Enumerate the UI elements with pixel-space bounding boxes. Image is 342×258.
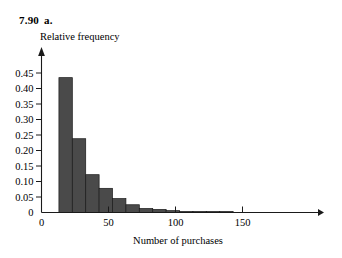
y-tick-label: 0.10 — [15, 176, 33, 187]
y-axis-ticks: 00.050.100.150.200.250.300.350.400.45 — [15, 68, 42, 219]
histogram-bar — [59, 78, 72, 213]
bars-group — [59, 78, 233, 213]
y-tick-label: 0.40 — [15, 83, 33, 94]
histogram-bar — [113, 199, 126, 213]
x-tick-label: 0 — [39, 217, 44, 228]
x-axis-title: Number of purchases — [0, 235, 342, 246]
x-axis-title-text: Number of purchases — [133, 235, 223, 246]
x-axis-arrowhead — [318, 209, 324, 216]
y-tick-label: 0.05 — [15, 192, 33, 203]
y-tick-label: 0.20 — [15, 145, 33, 156]
histogram-bar — [72, 139, 85, 213]
y-tick-label: 0.35 — [15, 99, 33, 110]
histogram-plot: 00.050.100.150.200.250.300.350.400.45 05… — [0, 0, 342, 258]
y-tick-label: 0.45 — [15, 68, 33, 79]
histogram-bar — [99, 188, 112, 212]
y-tick-label: 0.25 — [15, 130, 33, 141]
x-tick-label: 50 — [103, 217, 114, 228]
histogram-bar — [126, 205, 139, 213]
x-tick-label: 150 — [235, 217, 251, 228]
y-axis-arrowhead — [38, 47, 45, 56]
histogram-bar — [86, 175, 99, 213]
y-tick-label: 0 — [28, 207, 33, 218]
y-tick-label: 0.30 — [15, 114, 33, 125]
y-tick-label: 0.15 — [15, 161, 33, 172]
histogram-bar — [139, 208, 152, 212]
figure-7-90-a: 7.90a. Relative frequency 00.050.100.150… — [0, 0, 342, 258]
x-tick-label: 100 — [168, 217, 184, 228]
